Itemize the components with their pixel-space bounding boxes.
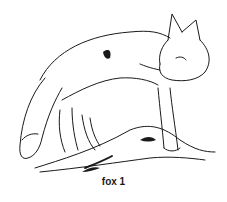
- fox-illustration: [0, 0, 227, 202]
- figure-caption: fox 1: [0, 176, 227, 187]
